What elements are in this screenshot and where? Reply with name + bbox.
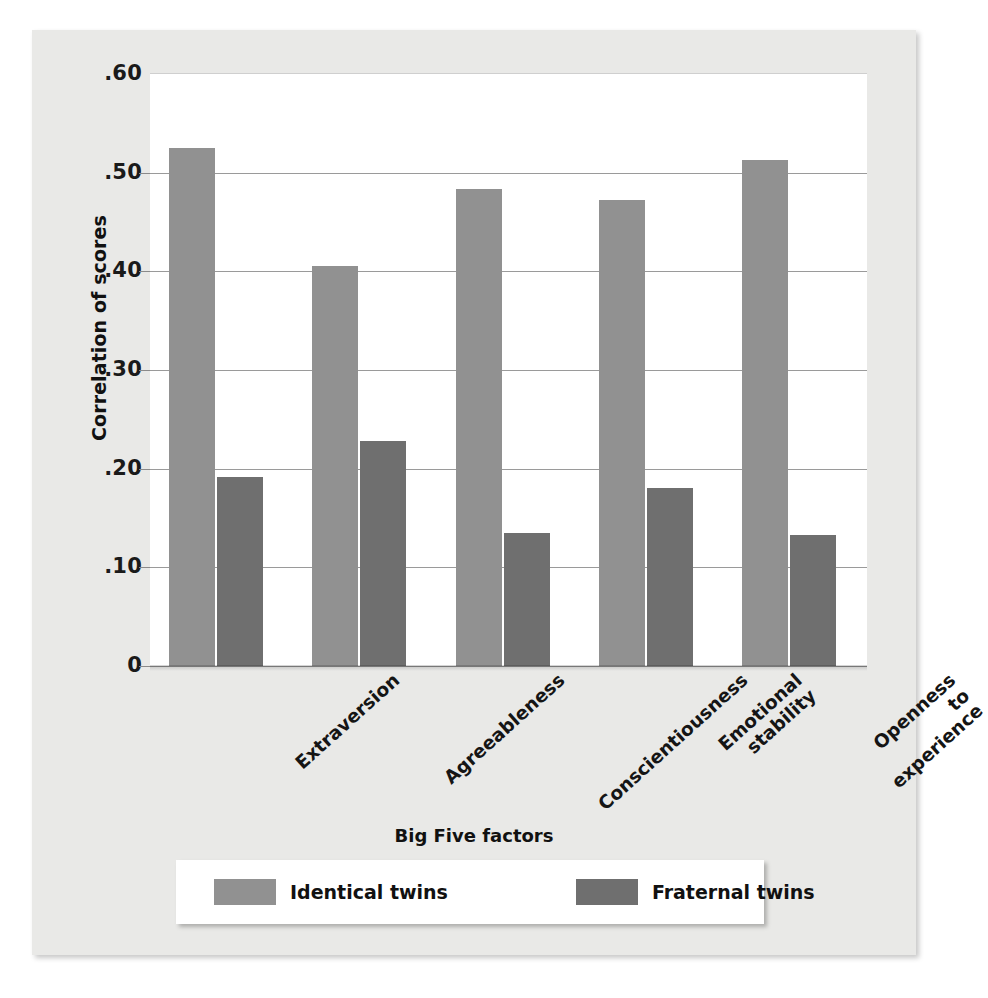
bar-fraternal-twins-agreeableness	[360, 441, 406, 666]
bar-identical-twins-openness-to-experience	[742, 160, 788, 666]
bar-fraternal-twins-extraversion	[217, 477, 263, 666]
legend-label-identical: Identical twins	[290, 881, 448, 903]
y-tick-mark	[139, 666, 150, 667]
bar-identical-twins-extraversion	[169, 148, 215, 666]
bar-fraternal-twins-conscientiousness	[504, 533, 550, 666]
y-tick-label: .50	[104, 160, 142, 184]
y-tick-mark	[139, 173, 150, 174]
y-tick-label: .40	[104, 258, 142, 282]
bar-identical-twins-conscientiousness	[456, 189, 502, 666]
y-tick-mark	[139, 370, 150, 371]
x-tick-label: Extraversion	[292, 670, 404, 774]
y-tick-label: .10	[104, 554, 142, 578]
x-axis-title: Big Five factors	[32, 825, 916, 846]
y-tick-label: .20	[104, 456, 142, 480]
y-axis-ticks: .60.50.40.30.20.100	[72, 73, 142, 665]
y-tick-label: .30	[104, 357, 142, 381]
legend-label-fraternal: Fraternal twins	[652, 881, 815, 903]
y-tick-label: 0	[127, 653, 142, 677]
y-tick-mark	[139, 567, 150, 568]
legend-item-fraternal-twins: Fraternal twins	[576, 879, 815, 905]
y-tick-mark	[139, 469, 150, 470]
legend-swatch-fraternal-icon	[576, 879, 638, 905]
bar-fraternal-twins-emotional-stability	[647, 488, 693, 666]
chart-legend: Identical twins Fraternal twins	[176, 860, 764, 924]
x-axis-labels: ExtraversionAgreeablenessConscientiousne…	[150, 670, 867, 820]
bar-identical-twins-agreeableness	[312, 266, 358, 666]
x-tick-label: Openness to experience	[861, 670, 988, 793]
y-tick-mark	[139, 271, 150, 272]
legend-item-identical-twins: Identical twins	[214, 879, 448, 905]
x-tick-label: Agreeableness	[441, 670, 569, 789]
y-tick-label: .60	[104, 61, 142, 85]
plot-area	[150, 73, 867, 666]
figure-panel: Correlation of scores .60.50.40.30.20.10…	[32, 30, 916, 955]
bar-identical-twins-emotional-stability	[599, 200, 645, 666]
bar-fraternal-twins-openness-to-experience	[790, 535, 836, 666]
legend-swatch-identical-icon	[214, 879, 276, 905]
